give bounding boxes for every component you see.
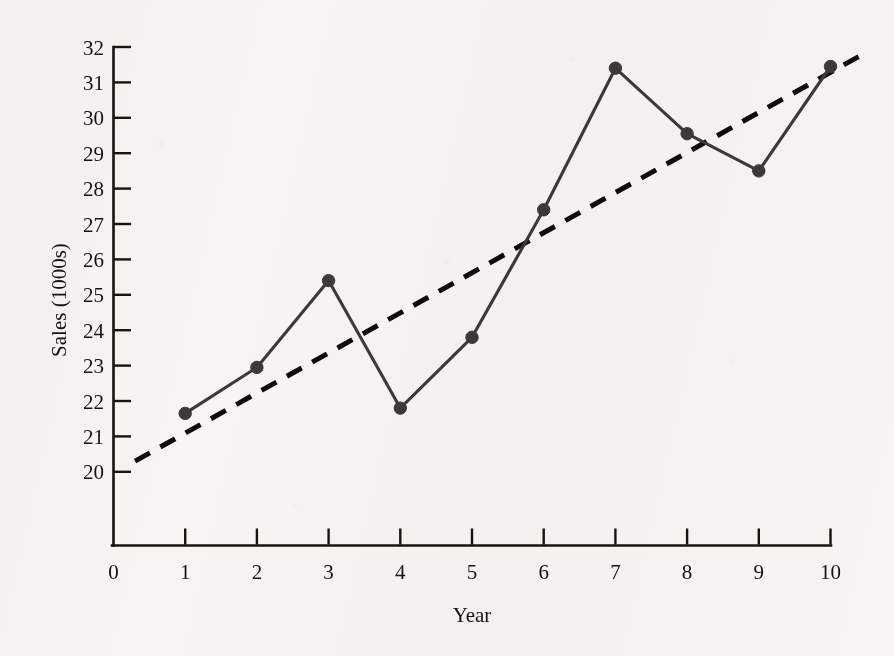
y-axis-ticks: [114, 47, 131, 472]
y-tick-label-22: 22: [83, 390, 104, 414]
data-point-year-7: [609, 62, 621, 74]
y-tick-label-25: 25: [83, 283, 104, 307]
y-tick-label-31: 31: [83, 71, 104, 95]
x-tick-label-6: 6: [538, 560, 549, 584]
x-tick-label-10: 10: [820, 560, 841, 584]
x-tick-label-3: 3: [323, 560, 334, 584]
y-axis-title: Sales (1000s): [47, 243, 71, 357]
data-point-year-5: [466, 331, 478, 343]
y-tick-label-20: 20: [83, 460, 104, 484]
x-tick-label-0: 0: [108, 560, 119, 584]
y-tick-label-27: 27: [83, 213, 104, 237]
x-tick-label-9: 9: [754, 560, 765, 584]
x-tick-label-2: 2: [252, 560, 263, 584]
sales-series-markers: [179, 60, 837, 419]
data-point-year-2: [251, 361, 263, 373]
y-tick-label-29: 29: [83, 142, 104, 166]
trend-line: [135, 52, 866, 461]
x-tick-label-1: 1: [180, 560, 191, 584]
data-point-year-6: [538, 204, 550, 216]
y-tick-label-30: 30: [83, 106, 104, 130]
y-tick-label-24: 24: [83, 319, 105, 343]
x-axis-title: Year: [453, 603, 492, 627]
x-tick-label-7: 7: [610, 560, 621, 584]
x-tick-label-8: 8: [682, 560, 693, 584]
x-tick-label-4: 4: [395, 560, 406, 584]
y-tick-label-21: 21: [83, 425, 104, 449]
data-point-year-3: [322, 274, 334, 286]
y-tick-label-23: 23: [83, 354, 104, 378]
data-point-year-1: [179, 407, 191, 419]
data-point-year-8: [681, 128, 693, 140]
data-point-year-9: [753, 165, 765, 177]
sales-series-line: [185, 67, 830, 414]
y-axis-tick-labels: 20212223242526272829303132: [83, 36, 105, 485]
x-axis-tick-labels: 012345678910: [108, 560, 841, 584]
y-tick-label-32: 32: [83, 36, 104, 60]
x-tick-label-5: 5: [467, 560, 478, 584]
y-tick-label-26: 26: [83, 248, 104, 272]
y-tick-label-28: 28: [83, 177, 104, 201]
x-axis-ticks: [185, 529, 830, 545]
data-point-year-10: [824, 60, 836, 72]
sales-by-year-figure: 20212223242526272829303132 012345678910 …: [0, 0, 894, 656]
data-point-year-4: [394, 402, 406, 414]
axis-spines: [112, 47, 831, 546]
chart-canvas: 20212223242526272829303132 012345678910 …: [0, 0, 894, 656]
